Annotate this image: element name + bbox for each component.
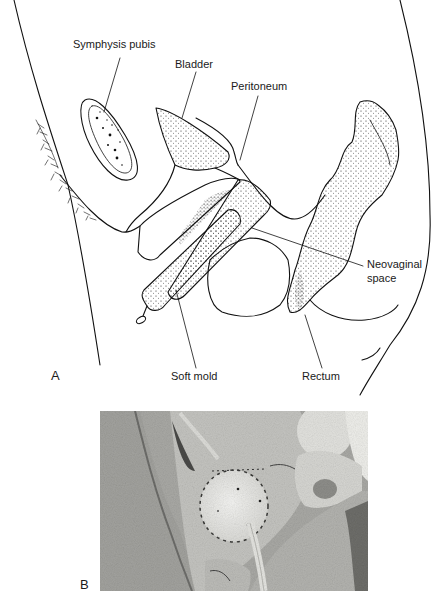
buttock-inner-curve bbox=[310, 300, 398, 320]
sagittal-pelvis-illustration bbox=[0, 0, 445, 400]
label-neovaginal-space-line1: Neovaginal bbox=[367, 258, 422, 270]
surgical-photograph bbox=[100, 411, 368, 591]
panel-label-b: B bbox=[80, 577, 89, 592]
bladder bbox=[156, 108, 229, 170]
soft-mold-cap bbox=[135, 315, 147, 325]
gluteal-fold bbox=[362, 348, 380, 360]
label-neovaginal-space-line2: space bbox=[367, 272, 396, 284]
label-rectum: Rectum bbox=[302, 370, 340, 382]
leader-rectum bbox=[305, 315, 322, 368]
leader-peritoneum bbox=[240, 96, 258, 160]
photo-rendering bbox=[100, 411, 368, 591]
leader-soft-mold bbox=[176, 290, 196, 368]
soft-mold-stem bbox=[143, 306, 147, 316]
panel-label-a: A bbox=[51, 368, 60, 383]
symphysis-stipple bbox=[96, 111, 123, 166]
leader-symphysis bbox=[104, 58, 120, 112]
urethra-upper bbox=[126, 165, 175, 232]
symphysis-pubis-inner bbox=[89, 106, 132, 173]
label-soft-mold: Soft mold bbox=[171, 370, 217, 382]
leader-bladder bbox=[182, 72, 196, 118]
anatomical-figure: Symphysis pubis Bladder Peritoneum Neova… bbox=[0, 0, 445, 601]
label-symphysis-pubis: Symphysis pubis bbox=[73, 38, 156, 50]
anterior-body-outline bbox=[14, 0, 100, 365]
symphysis-pubis-outer bbox=[81, 99, 138, 180]
pubic-hair bbox=[36, 120, 96, 220]
label-peritoneum: Peritoneum bbox=[231, 80, 287, 92]
label-bladder: Bladder bbox=[175, 58, 213, 70]
